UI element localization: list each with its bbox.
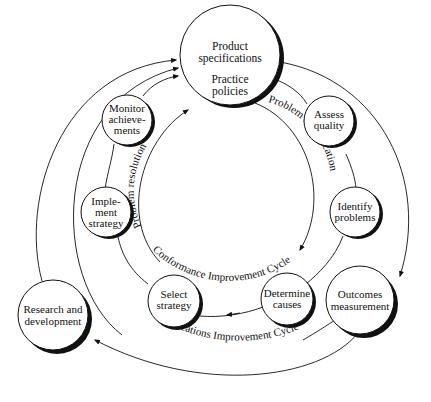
svg-text:Research and: Research and xyxy=(24,303,83,315)
svg-text:Product: Product xyxy=(212,40,249,52)
svg-text:measurement: measurement xyxy=(331,300,390,312)
node-determine-causes[interactable]: Determine causes xyxy=(261,273,316,328)
svg-text:quality: quality xyxy=(314,119,345,131)
arc-outcomes-to-specs-inner xyxy=(303,320,335,340)
arc-determine-to-select xyxy=(200,307,263,317)
arc-implement-to-monitor xyxy=(105,144,114,189)
svg-text:Outcomes: Outcomes xyxy=(338,288,383,300)
svg-text:Practice: Practice xyxy=(211,73,248,85)
svg-text:development: development xyxy=(25,315,82,327)
node-monitor-achievements[interactable]: Monitor achieve- ments xyxy=(102,95,155,147)
svg-text:ments: ments xyxy=(114,124,140,136)
svg-text:strategy: strategy xyxy=(89,217,124,229)
arc-assess-to-identify xyxy=(346,154,356,188)
node-product-specifications[interactable]: Product specifications Practice policies xyxy=(180,5,284,108)
node-identify-problems[interactable]: Identify problems xyxy=(330,187,383,239)
svg-text:problems: problems xyxy=(335,211,376,223)
node-select-strategy[interactable]: Select strategy xyxy=(148,275,203,330)
arc-select-to-implement xyxy=(118,237,148,284)
node-assess-quality[interactable]: Assess quality xyxy=(304,96,357,148)
quality-improvement-cycle-diagram: Problem resolution Problem identificatio… xyxy=(0,0,431,402)
svg-text:policies: policies xyxy=(212,85,248,98)
node-outcomes-measurement[interactable]: Outcomes measurement xyxy=(326,266,398,338)
svg-text:causes: causes xyxy=(273,298,302,310)
svg-text:specifications: specifications xyxy=(198,52,262,65)
svg-text:strategy: strategy xyxy=(157,299,192,311)
node-research-development[interactable]: Research and development xyxy=(18,280,92,354)
